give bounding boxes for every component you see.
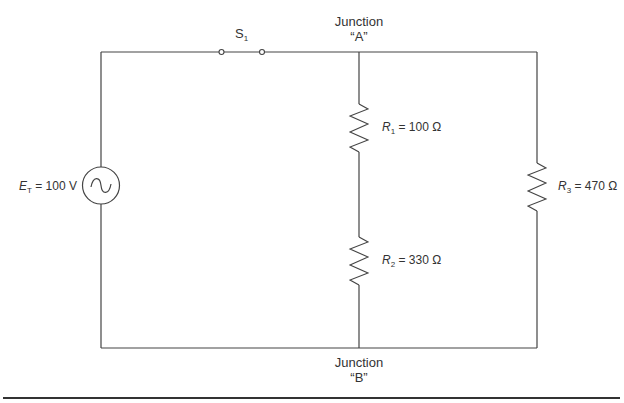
resistor-r1-icon [350, 104, 368, 152]
junction-a-label: Junction “A” [329, 14, 389, 44]
switch-terminal-left [219, 50, 224, 55]
source-subscript: T [27, 186, 32, 195]
source-value: = 100 V [35, 179, 77, 193]
junction-a-line1: Junction [329, 14, 389, 29]
switch-subscript: 1 [244, 34, 248, 43]
r3-symbol: R [558, 179, 567, 193]
r3-subscript: 3 [567, 186, 571, 195]
switch-label: S1 [235, 27, 248, 41]
r2-value: = 330 Ω [398, 253, 441, 267]
r1-symbol: R [382, 120, 391, 134]
resistor-r1-label: R1 = 100 Ω [382, 120, 441, 134]
r1-value: = 100 Ω [398, 120, 441, 134]
source-symbol: E [19, 179, 27, 193]
circuit-schematic [0, 0, 624, 403]
r2-symbol: R [382, 253, 391, 267]
resistor-r3-icon [528, 163, 546, 211]
resistor-r2-icon [350, 237, 368, 285]
junction-b-line1: Junction [329, 355, 389, 370]
resistor-r2-label: R2 = 330 Ω [382, 253, 441, 267]
junction-b-label: Junction “B” [329, 355, 389, 385]
r1-subscript: 1 [391, 127, 395, 136]
switch-terminal-right [260, 50, 265, 55]
junction-b-line2: “B” [329, 370, 389, 385]
ac-source-icon [83, 167, 120, 204]
r2-subscript: 2 [391, 260, 395, 269]
source-label: ET = 100 V [19, 179, 77, 193]
switch-symbol: S [235, 26, 244, 41]
junction-a-line2: “A” [329, 29, 389, 44]
resistor-r3-label: R3 = 470 Ω [558, 179, 617, 193]
r3-value: = 470 Ω [574, 179, 617, 193]
